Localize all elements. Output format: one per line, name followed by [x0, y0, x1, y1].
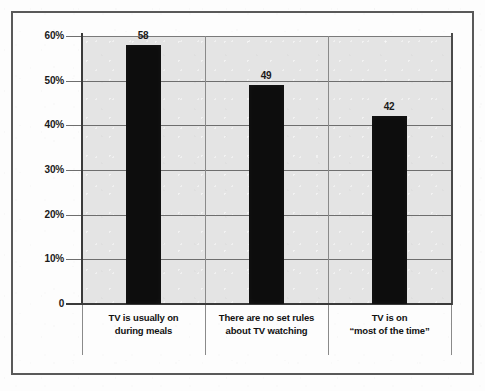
y-axis-label-20: 20% [6, 209, 64, 220]
y-tick-60 [66, 36, 82, 37]
y-axis-label-60: 60% [6, 30, 64, 41]
category-label-3-line-2: “most of the time” [328, 325, 451, 338]
bar-value-label-2: 49 [246, 70, 286, 81]
y-axis-label-40: 40% [6, 119, 64, 130]
bar-value-label-1: 58 [123, 30, 163, 41]
category-label-2-line-1: There are no set rules [205, 312, 328, 325]
y-axis-label-50: 50% [6, 75, 64, 86]
y-axis-line [81, 33, 83, 305]
y-axis-labels: 60% 50% 40% 30% 20% 10% 0 [0, 0, 64, 391]
category-label-2-line-2: about TV watching [205, 325, 328, 338]
category-divider-2 [205, 36, 206, 355]
category-divider-3 [328, 36, 329, 355]
y-axis-label-10: 10% [6, 253, 64, 264]
y-axis-label-0: 0 [6, 298, 64, 309]
y-tick-30 [66, 170, 82, 171]
bar-no-set-rules-about-tv-watching[interactable] [249, 85, 284, 304]
y-tick-40 [66, 125, 82, 126]
y-tick-20 [66, 215, 82, 216]
category-label-1-line-2: during meals [82, 325, 205, 338]
bar-tv-on-most-of-the-time[interactable] [372, 116, 407, 304]
y-axis-label-30: 30% [6, 164, 64, 175]
category-label-1-line-1: TV is usually on [82, 312, 205, 325]
y-tick-50 [66, 81, 82, 82]
category-label-2: There are no set rules about TV watching [205, 312, 328, 337]
plot-right-edge [451, 33, 453, 305]
category-label-3-line-1: TV is on [328, 312, 451, 325]
category-label-3: TV is on “most of the time” [328, 312, 451, 337]
bar-value-label-3: 42 [369, 101, 409, 112]
category-label-1: TV is usually on during meals [82, 312, 205, 337]
y-tick-10 [66, 259, 82, 260]
bar-tv-usually-on-during-meals[interactable] [126, 45, 161, 304]
